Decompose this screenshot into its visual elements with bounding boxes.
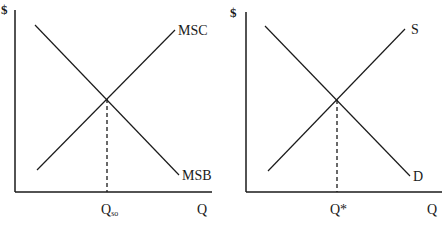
qso-label: Qso (101, 202, 118, 218)
msc-label: MSC (178, 23, 208, 38)
msb-label: MSB (182, 168, 212, 183)
q-star-label: Q* (330, 202, 347, 217)
right-y-axis-label: $ (230, 5, 237, 20)
demand-label: D (413, 169, 423, 184)
qso-label-sub: so (111, 209, 118, 218)
right-x-axis-label: Q (427, 202, 437, 217)
supply-label: S (411, 22, 419, 37)
right-chart: $ S D Q* Q (230, 5, 442, 217)
left-x-axis-label: Q (197, 202, 207, 217)
left-chart: $ MSC MSB Qso Q (1, 2, 212, 218)
qso-label-main: Q (101, 202, 111, 217)
left-y-axis-label: $ (1, 2, 8, 17)
economics-diagrams: $ MSC MSB Qso Q $ S D Q* Q (0, 0, 442, 230)
